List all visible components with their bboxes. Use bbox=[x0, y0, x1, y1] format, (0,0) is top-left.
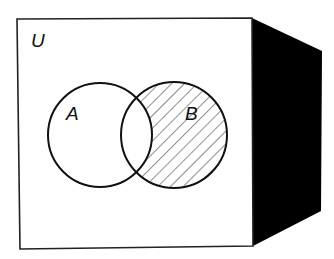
box-side-face bbox=[252, 18, 322, 246]
universe-label: U bbox=[31, 30, 45, 51]
venn-diagram: U A B bbox=[0, 0, 334, 259]
set-b-label: B bbox=[185, 103, 198, 124]
set-a-label: A bbox=[65, 103, 79, 124]
